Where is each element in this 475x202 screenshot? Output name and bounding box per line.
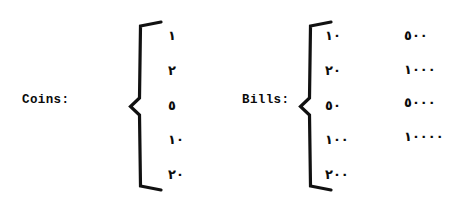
denomination-value: ١: [168, 29, 176, 42]
denomination-value: ١٠: [325, 29, 341, 42]
denomination-value: ٢٠: [168, 168, 184, 181]
denomination-value: ٥٠٠: [404, 29, 428, 42]
denomination-value: ١٠: [168, 133, 184, 146]
denomination-value: ٢: [168, 64, 176, 77]
bills-denomination-column-low: ١٠ ٢٠ ٥٠ ١٠٠ ٢٠٠: [325, 29, 349, 181]
denomination-value: ١٠٠٠٠: [404, 130, 444, 143]
denomination-value: ٢٠٠: [325, 168, 349, 181]
denomination-value: ٥: [168, 99, 176, 112]
document-page: Coins: ١ ٢ ٥ ١٠ ٢٠ Bills: ١٠ ٢٠ ٥٠ ١٠٠: [0, 0, 475, 202]
denomination-value: ١٠٠٠: [404, 63, 436, 76]
coins-brace-icon: [128, 20, 162, 192]
denomination-value: ١٠٠: [325, 133, 349, 146]
coins-label: Coins:: [22, 94, 69, 107]
coins-group: Coins: ١ ٢ ٥ ١٠ ٢٠: [0, 0, 237, 202]
denomination-value: ٥٠: [325, 99, 341, 112]
denomination-value: ٥٠٠٠: [404, 96, 436, 109]
denomination-value: ٢٠: [325, 64, 341, 77]
bills-group: Bills: ١٠ ٢٠ ٥٠ ١٠٠ ٢٠٠ ٥٠٠ ١٠٠٠ ٥٠٠٠ ١٠…: [237, 0, 475, 202]
bills-label: Bills:: [242, 94, 289, 107]
bills-denomination-column-high: ٥٠٠ ١٠٠٠ ٥٠٠٠ ١٠٠٠٠: [404, 29, 444, 143]
coins-denomination-column: ١ ٢ ٥ ١٠ ٢٠: [168, 29, 184, 181]
